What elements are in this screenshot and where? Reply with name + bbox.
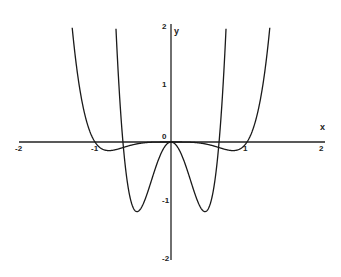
y-tick-label: -2 (162, 254, 170, 263)
origin-label: 0 (162, 132, 167, 141)
y-tick-label: 1 (162, 80, 167, 89)
x-axis-label: x (320, 122, 325, 132)
y-tick-label: 2 (162, 22, 167, 31)
y-axis-label: y (174, 26, 179, 36)
x-tick-label: 2 (319, 144, 324, 153)
y-tick-label: -1 (162, 196, 170, 205)
x-tick-label: -2 (15, 144, 23, 153)
function-plot: -2-112-2-1120 x y (0, 0, 341, 277)
